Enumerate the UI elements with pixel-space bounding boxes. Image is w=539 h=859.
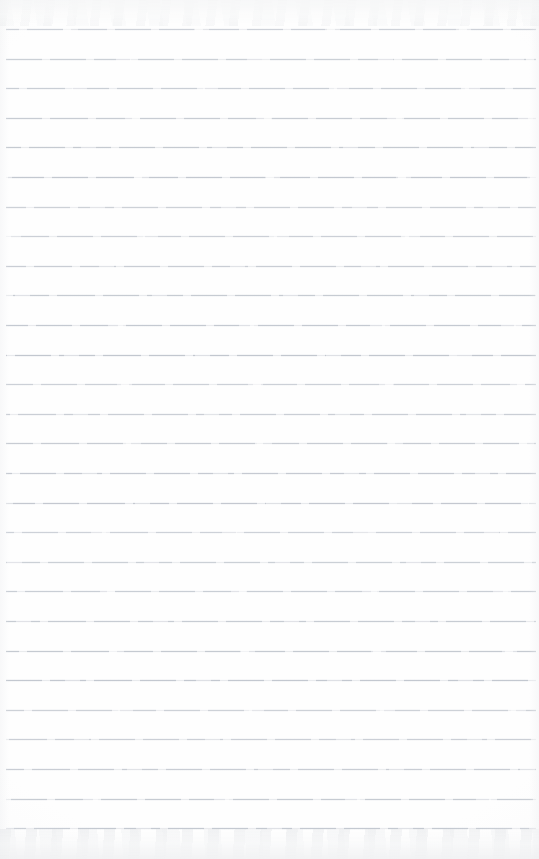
rule-line-fade [6,531,536,534]
rule-line-fade [6,265,536,268]
rule-line-fade [6,798,536,801]
rule-line [6,828,536,829]
rule-line [6,29,536,30]
rule-line [6,88,536,89]
rule-line [6,295,536,296]
rule-line [6,562,536,563]
rule-line [6,325,536,326]
rule-line-fade [6,679,536,682]
rule-line [6,739,536,740]
rule-line [6,355,536,356]
rule-line-fade [6,738,536,741]
ruled-lines-layer [0,0,539,859]
rule-line-fade [6,294,536,297]
rule-line-fade [6,827,536,830]
rule-line-fade [6,413,536,416]
rule-line-fade [6,561,536,564]
rule-line [6,591,536,592]
rule-line-fade [6,117,536,120]
rule-line [6,621,536,622]
rule-line [6,473,536,474]
rule-line-fade [6,768,536,771]
rule-line [6,532,536,533]
rule-line [6,207,536,208]
rule-line [6,799,536,800]
rule-line [6,414,536,415]
rule-line [6,147,536,148]
rule-line [6,651,536,652]
rule-line [6,443,536,444]
rule-line-fade [6,650,536,653]
rule-line [6,710,536,711]
rule-line-fade [6,354,536,357]
rule-line-fade [6,28,536,31]
rule-line [6,118,536,119]
rule-line [6,236,536,237]
rule-line-fade [6,58,536,61]
rule-line-fade [6,709,536,712]
rule-line-fade [6,324,536,327]
rule-line [6,384,536,385]
rule-line-fade [6,235,536,238]
rule-line-fade [6,502,536,505]
rule-line-fade [6,206,536,209]
rule-line-fade [6,383,536,386]
rule-line [6,769,536,770]
rule-line-fade [6,176,536,179]
rule-line [6,59,536,60]
rule-line-fade [6,472,536,475]
scanned-page [0,0,539,859]
rule-line-fade [6,87,536,90]
rule-line [6,177,536,178]
rule-line-fade [6,590,536,593]
rule-line [6,503,536,504]
rule-line-fade [6,442,536,445]
rule-line [6,680,536,681]
rule-line [6,266,536,267]
rule-line-fade [6,146,536,149]
rule-line-fade [6,620,536,623]
